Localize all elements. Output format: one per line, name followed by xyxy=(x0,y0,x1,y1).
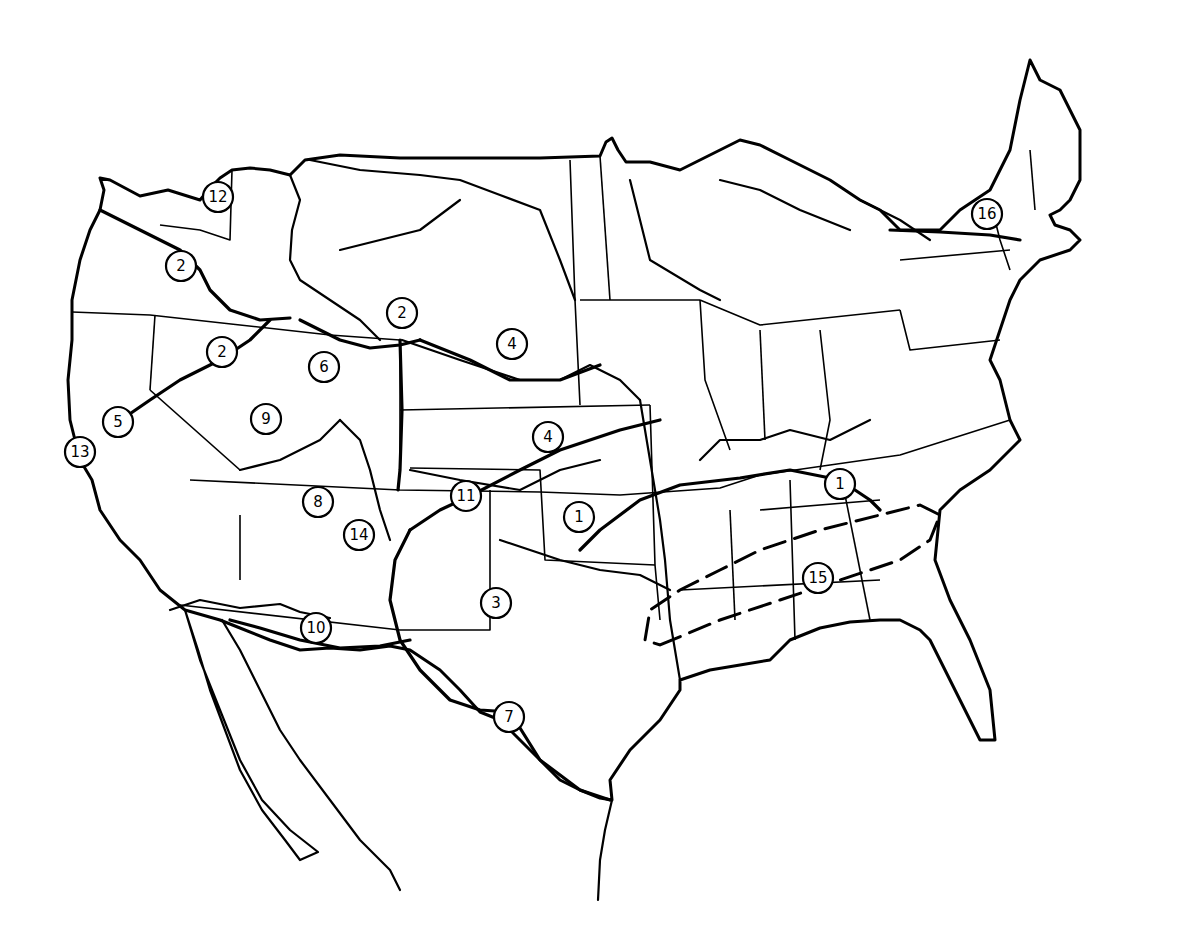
region-label-16: 16 xyxy=(972,199,1002,229)
svg-text:3: 3 xyxy=(491,594,501,612)
state-boundaries xyxy=(72,150,1035,640)
routes xyxy=(100,210,1020,800)
us-map: 12 2 2 2 4 6 5 9 4 13 1 11 8 1 14 15 3 1… xyxy=(0,0,1177,943)
svg-text:5: 5 xyxy=(113,413,123,431)
region-label-1: 1 xyxy=(825,469,855,499)
region-label-11: 11 xyxy=(451,481,481,511)
baja-coast xyxy=(185,610,318,860)
region-label-6: 6 xyxy=(309,352,339,382)
svg-text:10: 10 xyxy=(306,619,325,637)
svg-text:6: 6 xyxy=(319,358,329,376)
svg-text:1: 1 xyxy=(835,475,845,493)
us-outline xyxy=(68,60,1080,800)
region-label-15: 15 xyxy=(803,563,833,593)
region-label-12: 12 xyxy=(203,182,233,212)
region-labels: 12 2 2 2 4 6 5 9 4 13 1 11 8 1 14 15 3 1… xyxy=(65,182,1002,732)
svg-text:13: 13 xyxy=(70,443,89,461)
region-label-13: 13 xyxy=(65,437,95,467)
region-label-9: 9 xyxy=(251,404,281,434)
region-label-10: 10 xyxy=(301,613,331,643)
region-label-1: 1 xyxy=(564,502,594,532)
svg-text:12: 12 xyxy=(208,188,227,206)
region-label-2: 2 xyxy=(387,298,417,328)
svg-text:7: 7 xyxy=(504,708,514,726)
svg-text:2: 2 xyxy=(217,343,227,361)
mexico-coast xyxy=(222,620,400,890)
svg-text:4: 4 xyxy=(543,428,553,446)
svg-text:2: 2 xyxy=(176,257,186,275)
svg-text:15: 15 xyxy=(808,569,827,587)
region-label-4: 4 xyxy=(533,422,563,452)
region-label-8: 8 xyxy=(303,487,333,517)
region-label-3: 3 xyxy=(481,588,511,618)
region-label-2: 2 xyxy=(166,251,196,281)
rivers xyxy=(170,160,930,680)
svg-text:14: 14 xyxy=(349,526,368,544)
region-label-14: 14 xyxy=(344,520,374,550)
region-label-4: 4 xyxy=(497,329,527,359)
gulf-coast-mexico xyxy=(598,800,612,900)
svg-text:2: 2 xyxy=(397,304,407,322)
svg-text:1: 1 xyxy=(574,508,584,526)
region-label-5: 5 xyxy=(103,407,133,437)
region-label-2: 2 xyxy=(207,337,237,367)
svg-text:9: 9 xyxy=(261,410,271,428)
svg-text:8: 8 xyxy=(313,493,323,511)
svg-text:16: 16 xyxy=(977,205,996,223)
region-label-7: 7 xyxy=(494,702,524,732)
svg-text:11: 11 xyxy=(456,487,475,505)
svg-text:4: 4 xyxy=(507,335,517,353)
